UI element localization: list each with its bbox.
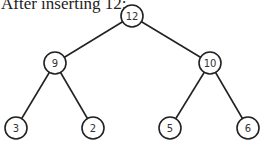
node-5: 5: [159, 117, 181, 139]
svg-text:9: 9: [52, 58, 58, 69]
binary-heap-tree: 12 9 10 3 2 5 6: [0, 0, 262, 145]
svg-text:3: 3: [13, 123, 19, 134]
node-12: 12: [121, 5, 143, 27]
node-9: 9: [44, 52, 66, 74]
node-2: 2: [82, 117, 104, 139]
edge-12-10: [132, 16, 210, 63]
svg-text:6: 6: [245, 123, 251, 134]
edge-12-9: [55, 16, 132, 63]
svg-text:2: 2: [90, 123, 96, 134]
svg-text:10: 10: [204, 58, 217, 69]
node-3: 3: [5, 117, 27, 139]
svg-text:5: 5: [167, 123, 173, 134]
svg-text:12: 12: [126, 11, 139, 22]
node-6: 6: [237, 117, 259, 139]
node-10: 10: [199, 52, 221, 74]
